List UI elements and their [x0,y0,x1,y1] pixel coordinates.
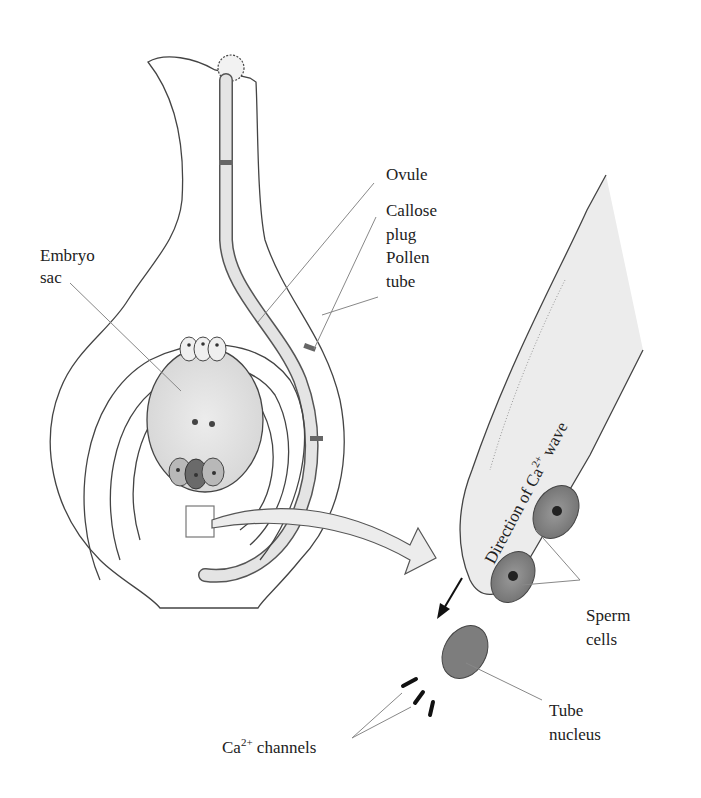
label-ca-channels: Ca2+ channels [222,736,316,757]
label-ovule: Ovule [386,165,428,184]
embryo-sac [147,337,263,492]
label-pollen-tube: Pollentube [386,248,430,291]
label-tube-nucleus: Tubenucleus [549,701,601,744]
antipodal-cells [180,337,226,361]
label-embryo-sac: Embryosac [40,246,95,287]
polar-nucleus [209,421,215,427]
calcium-channel [403,679,416,686]
label-callose-plug: Calloseplug [386,201,437,244]
calcium-channel [415,692,423,703]
pollen-tube-growth-diagram: Embryosac Ovule Calloseplug Pollentube D… [0,0,701,798]
calcium-channel [430,702,433,715]
callose-plug [219,160,233,165]
wave-direction-arrow [443,578,462,610]
zoom-region-box [186,506,214,537]
tube-nucleus [433,617,497,686]
label-sperm-cells: Spermcells [586,606,630,649]
callose-plug [310,436,323,441]
polar-nucleus [192,419,198,425]
